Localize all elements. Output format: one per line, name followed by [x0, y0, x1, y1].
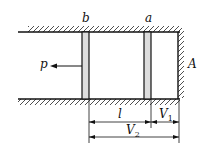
- length-l-label: l: [118, 108, 122, 120]
- wall-A-label: A: [188, 58, 197, 70]
- dim-v1-label: V1: [159, 108, 173, 123]
- pull-arrow-icon: [50, 64, 82, 69]
- bottom-wall: [18, 99, 180, 105]
- piston-b: [82, 32, 89, 99]
- dim-v2-main: V: [126, 123, 135, 137]
- cylinder-diagram: [0, 0, 206, 150]
- force-p-label: p: [40, 58, 48, 70]
- dim-v2-sub: 2: [135, 130, 140, 139]
- dim-v2-label: V2: [126, 124, 140, 139]
- piston-a-label: a: [145, 12, 152, 24]
- end-wall-A: [178, 28, 184, 99]
- top-wall: [18, 26, 180, 32]
- piston-a: [144, 32, 151, 99]
- dim-v1-sub: 1: [168, 114, 173, 123]
- dim-v1-main: V: [159, 107, 168, 121]
- piston-b-label: b: [82, 12, 90, 24]
